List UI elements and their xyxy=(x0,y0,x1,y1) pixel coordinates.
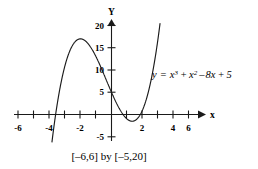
equation-text: y=x3+x2–8x+5 xyxy=(151,69,232,81)
x-axis-arrow-icon xyxy=(198,111,206,119)
graph-canvas: -6 -4 -2 2 4 6 x 20 15 10 5 -5 Y xyxy=(0,0,258,169)
equation-term2-exponent: 2 xyxy=(194,69,198,77)
equation-plus-2: + xyxy=(217,69,224,80)
x-tick-label--6: -6 xyxy=(14,123,22,133)
equation-term3: 8x xyxy=(205,69,215,80)
y-tick-label-15: 15 xyxy=(95,43,105,53)
y-tick-label-20: 20 xyxy=(95,21,105,31)
x-tick-label-2: 2 xyxy=(140,123,145,133)
x-tick-label-6: 6 xyxy=(186,123,191,133)
equation-equals: = xyxy=(160,69,167,80)
x-tick-label-4: 4 xyxy=(171,123,176,133)
x-tick-label--4: -4 xyxy=(45,123,53,133)
equation-term4: 5 xyxy=(226,69,231,80)
x-tick-label--2: -2 xyxy=(76,123,84,133)
y-axis-label: Y xyxy=(108,7,115,17)
x-axis-group: -6 -4 -2 2 4 6 x xyxy=(14,110,215,133)
equation-minus-1: – xyxy=(198,69,205,80)
equation-lhs: y xyxy=(151,69,157,80)
window-caption: [–6,6] by [–5,20] xyxy=(71,150,146,162)
equation-annotation: y=x3+x2–8x+5 xyxy=(151,69,232,81)
equation-term1-exponent: 3 xyxy=(173,69,178,77)
equation-plus-1: + xyxy=(180,69,187,80)
y-tick-label-5: 5 xyxy=(100,87,105,97)
y-axis-group: 20 15 10 5 -5 Y xyxy=(95,7,116,142)
y-tick-label--5: -5 xyxy=(97,132,105,142)
cubic-function-figure: -6 -4 -2 2 4 6 x 20 15 10 5 -5 Y xyxy=(0,0,258,169)
x-axis-label: x xyxy=(210,110,215,120)
